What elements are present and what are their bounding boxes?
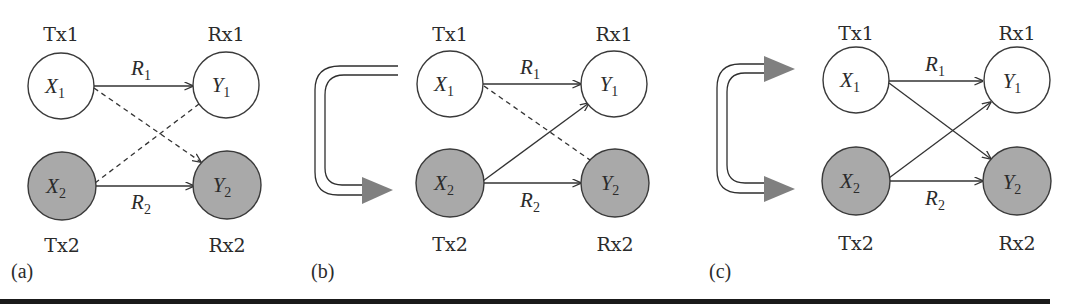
rate-r2: R2 [519,188,540,215]
arrowhead-top-icon [764,56,795,82]
link-x2-y1 [483,103,589,181]
tx2-label: Tx2 [432,233,467,255]
link-x1-y2-dashed [484,86,590,160]
link-x2-y1 [889,102,991,178]
tx1-label: Tx1 [43,23,78,45]
rate-r1: R1 [924,52,945,79]
link-x1-y2 [889,83,991,159]
interference-channel-figure: Tx1 Rx1 X1 Y1 X2 Y2 R1 R2 Tx2 Rx2 (a) Tx… [0,0,1081,306]
band-inner [325,75,398,185]
rx2-label: Rx2 [208,234,245,256]
node-y2 [983,147,1051,215]
tx1-label: Tx1 [432,23,467,45]
cooperation-arrow-two-way [717,56,795,202]
rx1-label: Rx1 [595,23,632,45]
rate-r1: R1 [130,56,151,83]
rx1-label: Rx1 [998,22,1035,44]
rate-r2: R2 [130,190,151,217]
panel-label-a: (a) [11,260,33,283]
panel-label-c: (c) [709,260,731,283]
tx1-label: Tx1 [838,22,873,44]
panel-b: Tx1 Rx1 X1 Y1 X2 Y2 R1 R2 Tx2 Rx2 (b) [311,23,649,283]
rate-r2: R2 [924,186,945,213]
arrowhead-icon [362,177,393,204]
arrowhead-bottom-icon [764,176,795,202]
link-x1-y2-dashed [94,88,201,162]
band-inner [727,73,766,183]
tx2-label: Tx2 [838,232,873,254]
tx2-label: Tx2 [44,234,79,256]
node-y1 [984,47,1050,113]
cooperation-arrow-one-way [315,66,398,204]
rx1-label: Rx1 [207,23,244,45]
panel-c: Tx1 Rx1 X1 Y1 X2 Y2 R1 R2 Tx2 Rx2 (c) [709,22,1051,283]
panel-label-b: (b) [311,260,334,283]
panel-a: Tx1 Rx1 X1 Y1 X2 Y2 R1 R2 Tx2 Rx2 (a) [11,23,261,283]
rx2-label: Rx2 [596,233,633,255]
bottom-rule [0,299,1050,304]
band-outer [315,66,398,195]
rx2-label: Rx2 [998,232,1035,254]
rate-r1: R1 [519,55,540,82]
band-outer [717,64,766,193]
link-x2-y1-dashed [95,104,199,183]
